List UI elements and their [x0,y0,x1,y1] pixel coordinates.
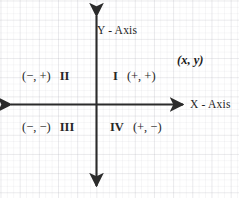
quadrant-4-label: IV (+, −) [110,121,162,134]
quadrant-3-signs: (−, −) [22,121,51,134]
quadrant-4-signs: (+, −) [133,121,162,134]
quadrant-3-label: (−, −) III [22,121,74,134]
quadrant-1-roman: I [113,70,118,83]
quadrant-4-roman: IV [110,121,124,134]
quadrant-1-label: I (+, +) [113,70,156,83]
quadrant-1-signs: (+, +) [127,70,156,83]
quadrant-2-signs: (−, +) [22,70,51,83]
coordinate-plane-diagram: Y - Axis X - Axis (x, y) (−, +) II I (+,… [0,0,239,198]
x-axis-label: X - Axis [190,99,231,111]
quadrant-2-label: (−, +) II [22,70,69,83]
point-coordinate-label: (x, y) [177,54,203,67]
y-axis-label: Y - Axis [97,25,137,37]
quadrant-2-roman: II [60,70,70,83]
quadrant-3-roman: III [60,121,75,134]
